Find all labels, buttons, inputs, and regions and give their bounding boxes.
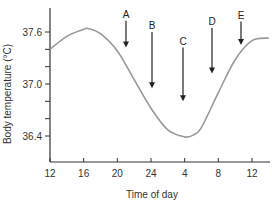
arrow-label: E [238, 10, 245, 21]
x-tick-label: 4 [182, 168, 188, 179]
arrow-head-icon [123, 42, 129, 48]
temperature-line [50, 28, 269, 137]
temperature-curve [50, 28, 269, 137]
arrow-e: E [238, 10, 245, 45]
x-axis-title: Time of day [126, 189, 178, 200]
arrow-a: A [123, 9, 130, 48]
y-tick-label: 37.6 [23, 27, 43, 38]
arrow-label: A [123, 9, 130, 20]
arrow-c: C [179, 36, 186, 102]
y-tick-label: 37.0 [23, 79, 43, 90]
y-axis: 37.637.036.4 [23, 8, 50, 162]
x-tick-label: 12 [246, 168, 258, 179]
y-axis-title: Body temperature (°C) [2, 44, 13, 144]
arrow-d: D [208, 16, 215, 74]
arrow-head-icon [238, 39, 244, 45]
arrow-head-icon [180, 95, 186, 101]
arrow-label: B [149, 20, 156, 31]
arrow-label: D [208, 16, 215, 27]
x-tick-label: 24 [145, 168, 157, 179]
x-tick-label: 20 [112, 168, 124, 179]
y-tick-label: 36.4 [23, 131, 43, 142]
x-tick-label: 16 [78, 168, 90, 179]
arrow-head-icon [209, 68, 215, 74]
arrow-label: C [179, 36, 186, 47]
x-tick-label: 12 [44, 168, 56, 179]
temperature-chart: 37.637.036.4 121620244812 ABCDE Time of … [0, 0, 279, 204]
arrow-annotations: ABCDE [123, 9, 245, 102]
arrow-b: B [149, 20, 156, 88]
arrow-head-icon [149, 82, 155, 88]
x-tick-label: 8 [216, 168, 222, 179]
x-axis: 121620244812 [44, 158, 270, 179]
